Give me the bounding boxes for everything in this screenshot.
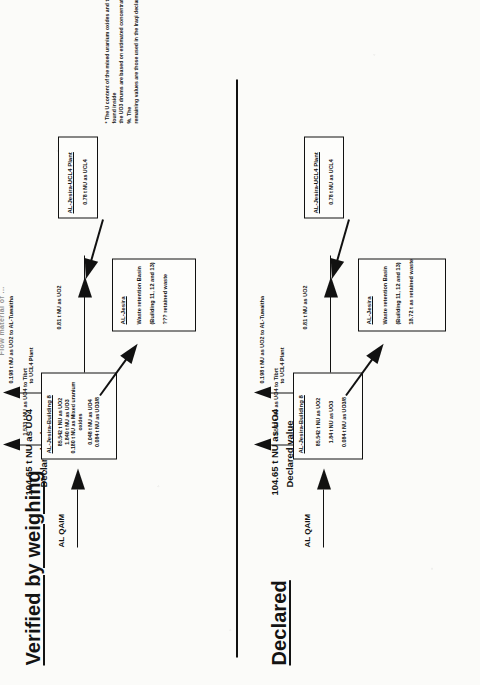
basin-line2: (Building 11, 12 and 13) (392, 262, 405, 324)
row-value: 1.840 t NU as UO3 (64, 376, 71, 453)
box-rows-ucl4-plant-declared: 0.78 t NU as UCL4 (328, 140, 335, 213)
arrowhead-out-second-declared (254, 387, 271, 399)
transfer-label-verified: 0.81 t NU as UO2 (56, 285, 62, 329)
section-title-declared: Declared (268, 580, 291, 665)
arrow-shaft-out-top-declared (271, 444, 293, 445)
plant-amount: 0.78 t NU as UCL4 (328, 140, 335, 213)
source-label-declared: AL QAIM (303, 513, 312, 547)
arrow-shaft-source-to-building-declared (323, 489, 324, 547)
page-top-trimmed-heading: Flow material of ... (0, 286, 5, 355)
source-label-verified: AL QAIM (57, 513, 66, 547)
section-title-verified: Verified by weighing (22, 470, 45, 665)
box-ucl4-plant-declared: AL-Jesira-UCL4 Plant 0.78 t NU as UCL4 (304, 136, 344, 218)
basin-line1: Waste retention Basin (133, 262, 146, 324)
transfer-label-declared: 0.81 t NU as UO2 (302, 285, 308, 329)
row-value: 85.542 t NU as UO2 (57, 376, 64, 453)
basin-line2: (Building 11, 12 and 13) (146, 262, 159, 324)
scanned-page: Flow material of ... Verified by weighin… (0, 0, 480, 685)
basin-line3: ??? retained waste (159, 262, 172, 324)
arrow-shaft-out-top-verified (20, 444, 42, 445)
box-title-ucl4-plant-verified: AL-Jesira-UCL4 Plant (67, 152, 73, 213)
row-value: 1.84 t NU as UO3 (325, 376, 338, 453)
arrowhead-out-top-declared (254, 439, 271, 451)
arrowhead-source-to-building-verified (71, 468, 85, 489)
outflow-second-label-line1-declared: 0.198 t NU as UO2 to AL-Tuwaitha (259, 295, 265, 383)
footnote-line2: the UO3 drums are based on estimated con… (118, 0, 132, 123)
box-ucl4-plant-verified: AL-Jesira-UCL4 Plant 0.78 t NU as UCL4 (58, 136, 98, 218)
outflow-second-label-line2-verified: to UCL4 Plant (28, 347, 34, 383)
box-basin-verified: AL-Jesira Waste retention Basin (Buildin… (112, 258, 196, 331)
row-value: 0.084 t NU as UO3/8 (338, 376, 351, 453)
plant-amount: 0.78 t NU as UCL4 (82, 140, 89, 213)
row-value: 0.180 t NU as Mixed uranium (70, 376, 77, 453)
row-value: 85.542 t NU as UO2 (312, 376, 325, 453)
box-rows-basin-verified: Waste retention Basin (Building 11, 12 a… (133, 262, 172, 324)
footnote-line3: remaining values are those used in the I… (133, 0, 140, 123)
box-rows-basin-declared: Waste retention Basin (Building 11, 12 a… (379, 262, 418, 324)
footnote-line1: * The U content of the mixed uranium oxi… (104, 0, 118, 123)
box-rows-ucl4-plant-verified: 0.78 t NU as UCL4 (82, 140, 89, 213)
arrowhead-source-to-building-declared (317, 468, 331, 489)
box-title-building8-verified: AL-Jesira-Building 8 (46, 395, 52, 453)
box-title-building8-declared: AL-Jesira-Building 8 (298, 395, 304, 453)
diagram-sheet: Flow material of ... Verified by weighin… (0, 0, 480, 685)
row-value: 0.048 t NU as UO4 (87, 376, 94, 453)
box-title-basin-declared: AL-Jesira (365, 296, 372, 324)
outflow-second-label-line2-declared: to UCL4 Plant (279, 347, 285, 383)
arrow-shaft-source-to-building-verified (77, 489, 78, 547)
arrow-shaft-out-second-declared (271, 392, 293, 393)
basin-line1: Waste retention Basin (379, 262, 392, 324)
arrowhead-out-second-verified (3, 387, 20, 399)
box-rows-building8-declared: 85.542 t NU as UO2 1.84 t NU as UO3 0.08… (312, 376, 351, 453)
arrow-shaft-out-second-verified (20, 392, 42, 393)
box-title-basin-verified: AL-Jesira (119, 296, 126, 324)
box-rows-building8-verified: 85.542 t NU as UO2 1.840 t NU as UO3 0.1… (57, 376, 101, 453)
basin-line3: 18.72 t as retained waste (405, 262, 418, 324)
row-value: 0.084 t NU as UO3/8 (94, 376, 101, 453)
outflow-second-label-line1-verified: 0.198 t NU as UO2 to AL-Tuwaitha (8, 295, 14, 383)
arrowhead-out-top-verified (3, 439, 20, 451)
row-value: oxides (77, 376, 84, 453)
box-title-ucl4-plant-declared: AL-Jesira-UCL4 Plant (313, 152, 319, 213)
box-basin-declared: AL-Jesira Waste retention Basin (Buildin… (358, 258, 446, 331)
section-divider (236, 79, 238, 657)
footnote-verified: * The U content of the mixed uranium oxi… (104, 0, 140, 123)
